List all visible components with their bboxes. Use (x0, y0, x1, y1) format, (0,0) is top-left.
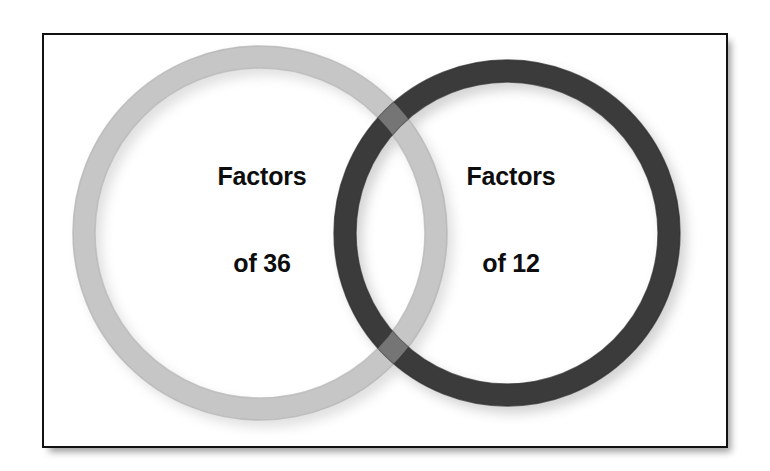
venn-diagram-figure: Factors of 36 Factors of 12 (0, 0, 770, 471)
label-factors-of-12-line2: of 12 (432, 249, 590, 278)
label-factors-of-12-line1: Factors (432, 162, 590, 191)
label-factors-of-36-line2: of 36 (183, 249, 341, 278)
label-factors-of-36-line1: Factors (183, 162, 341, 191)
venn-circles-svg (0, 0, 770, 471)
label-factors-of-12: Factors of 12 (432, 104, 590, 336)
venn-stage (0, 0, 770, 471)
label-factors-of-36: Factors of 36 (183, 104, 341, 336)
